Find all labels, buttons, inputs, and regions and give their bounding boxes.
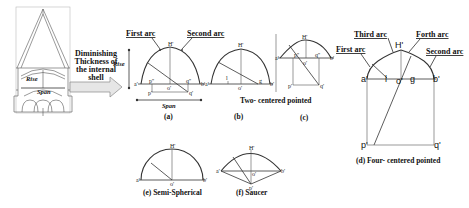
panel-c-point-H: H'	[302, 34, 307, 40]
panel-d-second-arc-label: Second arc	[426, 47, 464, 56]
panel-c-point-o: o'	[303, 60, 307, 66]
panel-b-point-o: o'	[238, 85, 242, 91]
panel-c-point-a: a'	[275, 55, 279, 61]
panel-c-caption: (c)	[300, 113, 309, 122]
panel-f-point-o: o'	[252, 171, 256, 177]
panel-e-point-H: H'	[170, 143, 175, 149]
panel-f-point-b: b'	[281, 168, 285, 174]
panel-e-point-a: a'	[136, 177, 140, 183]
panel-e-caption: (e) Semi-Spherical	[143, 188, 202, 197]
panel-c-point-q: q''	[315, 52, 320, 58]
panel-b-point-b: b'	[270, 81, 274, 87]
panel-d-point-p: p'	[361, 140, 368, 150]
panel-a-two-centered: Rise H' a' b' o' p'' q'' p' q' First arc…	[112, 29, 225, 121]
panel-c-point-q2: q'	[320, 83, 324, 89]
panel-e-point-b: b'	[203, 177, 207, 183]
panel-f-caption: (f) Saucer	[236, 188, 268, 197]
panel-d-point-o: o'	[396, 76, 403, 86]
building-span-label: Span	[37, 88, 51, 95]
callout-line-4: shell	[88, 73, 104, 82]
panel-f-saucer: H' a' b' o' p' (f) Saucer	[216, 145, 285, 197]
panel-b-point-g: g	[259, 78, 262, 84]
panel-a-span-label: Span	[162, 102, 176, 109]
panel-c-point-b: b'	[330, 55, 334, 61]
panel-d-four-centered: H' a' b' o' l g p' q' Third arc Forth ar…	[336, 30, 464, 165]
dome-geometry-figure: Rise Span Diminishing Thickness of the i…	[0, 0, 469, 208]
panel-c-two-centered: H' a' b' o' p'' q'' p' q' (c)	[275, 34, 334, 122]
panel-d-third-arc-label: Third arc	[354, 30, 387, 39]
building-rise-label: Rise	[25, 75, 38, 82]
panel-b-point-H: H'	[238, 42, 243, 48]
panel-a-second-arc-label: Second arc	[187, 29, 225, 38]
panel-a-rise-label: Rise	[112, 60, 125, 67]
panel-e-point-o: o'	[170, 181, 174, 187]
panel-f-point-H: H'	[249, 145, 254, 151]
panel-a-point-a: a'	[134, 81, 138, 87]
panel-b-caption: (b)	[234, 112, 244, 121]
panel-c-point-p: p''	[294, 52, 299, 58]
panel-a-caption: (a)	[164, 112, 173, 121]
panel-b-point-l: l	[226, 75, 228, 81]
panel-a-first-arc-label: First arc	[126, 29, 156, 38]
panel-a-point-p: p''	[149, 78, 154, 84]
panel-a-point-H: H'	[168, 41, 173, 47]
panel-a-point-p2: p'	[148, 90, 152, 96]
panel-a-point-q2: q'	[189, 90, 193, 96]
panel-d-forth-arc-label: Forth arc	[416, 30, 449, 39]
panel-d-first-arc-label: First arc	[336, 45, 366, 54]
panel-d-point-a: a'	[361, 74, 368, 84]
panel-b-two-centered: H' a' b' o' l g (b)	[205, 42, 274, 121]
panel-c-point-p2: p'	[288, 83, 292, 89]
panel-a-point-q: q''	[186, 78, 191, 84]
panel-b-point-a: a'	[205, 81, 209, 87]
panel-f-point-a: a'	[216, 168, 220, 174]
panel-a-point-o: o'	[167, 85, 171, 91]
panel-d-point-g: g	[410, 74, 415, 84]
two-centered-caption: Two- centered pointed	[240, 96, 312, 105]
panel-d-point-H: H'	[395, 40, 403, 50]
panel-d-point-b: b'	[433, 74, 440, 84]
panel-e-semi-spherical: H' a' b' o' (e) Semi-Spherical	[136, 143, 207, 197]
panel-d-caption: (d) Four- centered pointed	[356, 156, 441, 165]
diminishing-thickness-callout: Diminishing Thickness of the internal sh…	[70, 49, 122, 97]
panel-d-point-q: q'	[434, 140, 441, 150]
building-section-drawing: Rise Span	[14, 7, 72, 116]
panel-d-point-l: l	[385, 74, 387, 84]
